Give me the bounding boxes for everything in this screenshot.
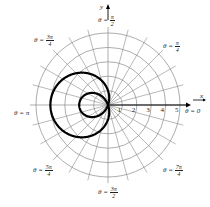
grid-radial-line [108, 30, 128, 105]
angle-label: θ = 0 [185, 108, 200, 115]
grid-radial-line [108, 105, 128, 180]
angle-label: θ = 3π4 [34, 34, 54, 47]
grid-radial-line [33, 105, 108, 125]
angle-label: θ = 3π2 [98, 186, 118, 199]
y-arrow-icon [106, 4, 110, 9]
r-tick-label: 5 [175, 107, 179, 114]
x-arrow-icon [203, 99, 206, 102]
r-tick-label: 3 [146, 107, 150, 114]
grid-radial-line [33, 85, 108, 105]
angle-label: θ = π4 [163, 40, 180, 53]
x-axis-label: x [200, 93, 203, 100]
angle-label: θ = 7π4 [163, 164, 183, 177]
y-axis-label: y [100, 4, 103, 11]
r-tick-label: 1 [117, 107, 121, 114]
grid-radial-line [108, 85, 183, 105]
angle-label: θ = 5π4 [33, 164, 53, 177]
r-tick-label: 4 [161, 107, 165, 114]
axes [30, 4, 206, 183]
angle-label: θ = π2 [98, 14, 115, 27]
angle-label: θ = π [14, 110, 29, 117]
r-tick-label: 2 [132, 107, 136, 114]
